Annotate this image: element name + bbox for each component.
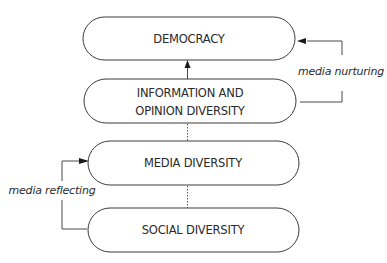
label-media-reflecting: media reflecting [9,184,96,197]
node-social-diversity: SOCIAL DIVERSITY [88,208,299,252]
node-democracy: DEMOCRACY [83,17,295,60]
node-information-opinion-diversity-label-line1: INFORMATION AND [137,86,244,100]
edge-media-nurturing: media nurturing [297,38,384,102]
node-information-opinion-diversity-label-line2: OPINION DIVERSITY [135,104,246,118]
node-media-diversity: MEDIA DIVERSITY [88,141,299,185]
node-information-opinion-diversity: INFORMATION AND OPINION DIVERSITY [84,79,296,123]
edge-media-reflecting: media reflecting [9,158,96,229]
label-media-nurturing: media nurturing [298,65,384,78]
arrow-left-icon [297,38,306,44]
diagram-canvas: DEMOCRACY INFORMATION AND OPINION DIVERS… [0,0,387,263]
edge-media-nurturing-lower-segment [300,91,342,102]
edge-media-nurturing-upper-segment [307,41,342,55]
arrow-up-icon [185,60,191,68]
edge-info-to-democracy [185,60,191,79]
edge-media-reflecting-upper-segment [62,161,79,181]
node-media-diversity-label: MEDIA DIVERSITY [144,156,243,170]
edge-media-reflecting-lower-segment [62,200,87,229]
node-democracy-label: DEMOCRACY [153,32,226,46]
node-social-diversity-label: SOCIAL DIVERSITY [142,223,246,237]
